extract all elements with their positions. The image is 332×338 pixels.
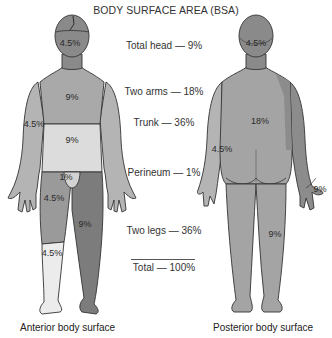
- posterior-figure: [197, 15, 323, 312]
- anterior-arm-label: 4.5%: [24, 119, 45, 129]
- legend-total: Total — 100%: [124, 262, 204, 273]
- anterior-thigh-label: 4.5%: [44, 193, 65, 203]
- posterior-right-leg: [256, 184, 286, 312]
- legend-trunk: Trunk — 36%: [128, 117, 200, 128]
- legend-two-arms: Two arms — 18%: [122, 86, 206, 97]
- anterior-caption: Anterior body surface: [20, 322, 115, 333]
- posterior-left-leg: [226, 184, 256, 312]
- anterior-perineum-label: 1%: [59, 172, 72, 182]
- anterior-abdomen: [42, 124, 102, 172]
- posterior-back-label: 18%: [251, 116, 269, 126]
- anterior-abdomen-label: 9%: [65, 135, 78, 145]
- posterior-right-arm-label: 9%: [313, 184, 326, 194]
- legend-two-legs: Two legs — 36%: [124, 225, 204, 236]
- posterior-head-label: 4.5%: [246, 38, 267, 48]
- anterior-right-leg-label: 9%: [78, 219, 91, 229]
- anterior-chest-label: 9%: [65, 92, 78, 102]
- posterior-caption: Posterior body surface: [213, 322, 313, 333]
- total-divider: [131, 259, 195, 260]
- legend-total-head: Total head — 9%: [126, 40, 202, 51]
- anterior-right-arm: [100, 82, 136, 212]
- posterior-head: [239, 15, 273, 57]
- anterior-figure: [8, 15, 136, 314]
- anterior-right-leg: [72, 172, 103, 314]
- anterior-head-label: 4.5%: [60, 38, 81, 48]
- posterior-leg-label: 9%: [268, 229, 281, 239]
- legend-perineum: Perineum — 1%: [124, 167, 204, 178]
- posterior-arm-label: 4.5%: [212, 144, 233, 154]
- anterior-head: [55, 15, 89, 57]
- anterior-left-arm: [8, 82, 44, 212]
- anterior-lower-leg-label: 4.5%: [42, 248, 63, 258]
